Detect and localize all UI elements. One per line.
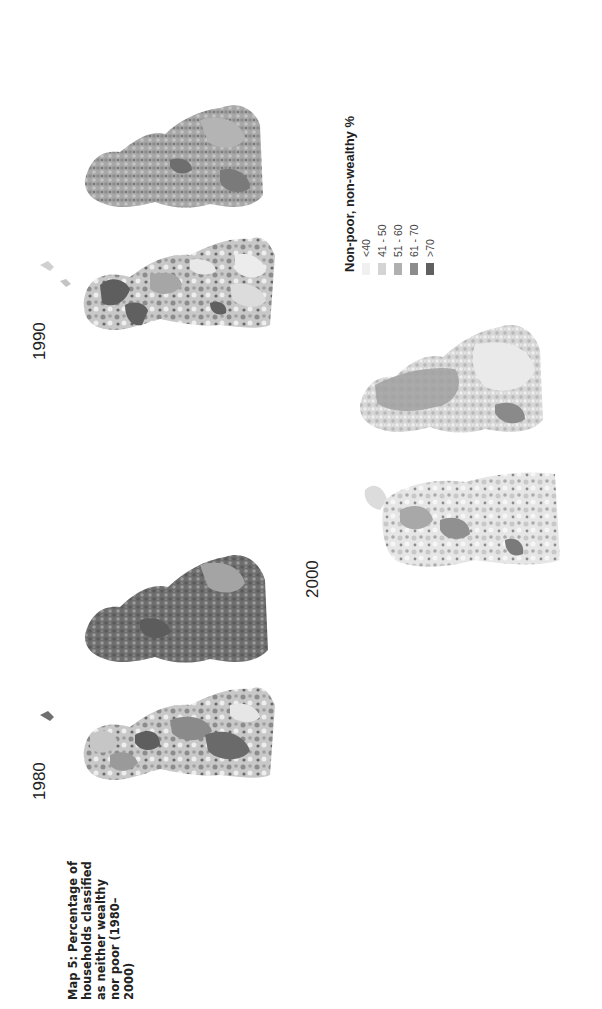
- caption-line: 2000): [122, 860, 136, 1000]
- map-caption: Map 5: Percentage of households classifi…: [66, 860, 136, 1000]
- legend-label: >70: [424, 239, 436, 257]
- legend-swatch: [378, 263, 386, 275]
- legend-item-51-60: 51 - 60: [392, 224, 404, 275]
- legend-label: 51 - 60: [392, 224, 404, 257]
- legend-swatch: [410, 263, 418, 275]
- legend-item-41-50: 41 - 50: [376, 224, 388, 275]
- map-1990-admin-units: [30, 215, 290, 355]
- legend: <40 41 - 50 51 - 60 61 - 70 >70: [360, 190, 440, 280]
- legend-item-61-70: 61 - 70: [408, 224, 420, 275]
- legend-item-gt70: >70: [424, 239, 436, 275]
- legend-swatch: [394, 263, 402, 275]
- legend-label: 41 - 50: [376, 224, 388, 257]
- caption-line: Map 5: Percentage of: [66, 860, 80, 1000]
- legend-label: <40: [360, 239, 372, 257]
- map-1980-grid-cells: [80, 525, 275, 675]
- legend-swatch: [362, 263, 370, 275]
- map-2000-grid-cells: [355, 295, 550, 440]
- caption-line: nor poor (1980–: [108, 860, 122, 1000]
- year-label-2000: 2000: [303, 560, 323, 598]
- legend-title: Non-poor, non-wealthy %: [342, 116, 357, 272]
- map-2000-admin-units: [355, 450, 575, 580]
- legend-swatch: [426, 263, 434, 275]
- map-1990-grid-cells: [80, 70, 270, 220]
- caption-line: households classified: [80, 860, 94, 1000]
- legend-item-lt40: <40: [360, 239, 372, 275]
- map-1980-admin-units: [30, 665, 290, 805]
- caption-line: as neither wealthy: [94, 860, 108, 1000]
- legend-label: 61 - 70: [408, 224, 420, 257]
